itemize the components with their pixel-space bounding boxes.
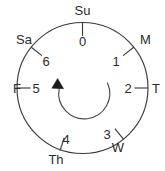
day-label-m: M [140, 32, 151, 47]
number-label-4: 4 [62, 132, 69, 147]
number-label-2: 2 [124, 81, 131, 96]
number-label-6: 6 [42, 54, 49, 69]
counterclockwise-arrow-head [52, 79, 64, 89]
weekday-circle-diagram: Su M T W Th F Sa 0 1 2 3 4 5 6 [0, 0, 165, 171]
number-label-5: 5 [32, 81, 39, 96]
tick-w [115, 129, 124, 140]
day-label-t: T [152, 81, 160, 96]
direction-arc [59, 83, 110, 119]
day-label-su: Su [75, 3, 91, 18]
day-label-th: Th [48, 152, 63, 167]
diagram-canvas: Su M T W Th F Sa 0 1 2 3 4 5 6 [0, 0, 165, 171]
tick-m [123, 47, 134, 55]
day-label-f: F [13, 81, 21, 96]
number-label-0: 0 [79, 34, 86, 49]
number-label-1: 1 [112, 54, 119, 69]
day-label-sa: Sa [16, 32, 33, 47]
tick-sa [31, 47, 42, 55]
number-label-3: 3 [103, 127, 110, 142]
day-label-w: W [112, 140, 125, 155]
